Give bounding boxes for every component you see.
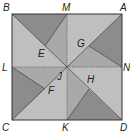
label-N: N <box>123 62 130 73</box>
label-H: H <box>87 74 95 85</box>
label-F: F <box>48 85 55 96</box>
label-C: C <box>2 122 10 132</box>
label-M: M <box>62 2 71 13</box>
label-J: J <box>56 71 63 82</box>
label-B: B <box>3 2 10 13</box>
label-D: D <box>120 122 127 132</box>
label-G: G <box>77 38 85 49</box>
label-L: L <box>2 62 8 73</box>
label-A: A <box>119 2 127 13</box>
label-K: K <box>62 122 70 132</box>
label-E: E <box>38 48 45 59</box>
square-pinwheel-diagram: B M A L N C K D E G J F H <box>0 0 130 132</box>
